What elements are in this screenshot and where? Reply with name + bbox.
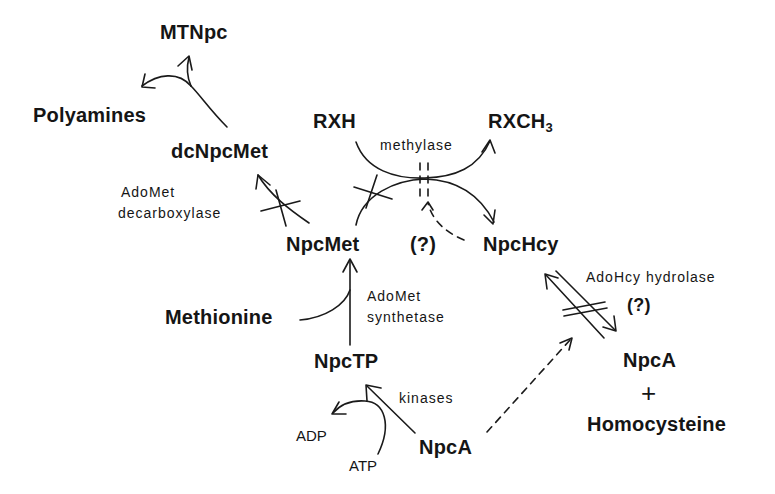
enzyme-adomet-synthetase-line2: synthetase [367,309,445,327]
arrow-dcnpcmet-branch [191,86,227,127]
node-rxch3-main: RXCH [488,110,545,132]
node-npca-right: NpcA [623,350,676,370]
pathway-diagram: MTNpc Polyamines dcNpcMet RXH RXCH3 NpcM… [0,0,775,494]
arrowhead-mtnpc [178,56,192,70]
node-homocysteine: Homocysteine [587,414,726,434]
enzyme-methylase: methylase [380,137,453,155]
node-npcmet: NpcMet [286,234,359,254]
node-methionine: Methionine [165,307,273,327]
arrow-atp-to-adp [333,401,385,454]
node-mtnpc: MTNpc [160,22,228,42]
arrowhead-feedback [422,202,433,210]
node-atp: ATP [349,458,377,473]
enzyme-kinases: kinases [399,390,453,408]
arrow-npcmet-to-npchcy [356,179,494,225]
enzyme-adomet-synthetase-line1: AdoMet [367,288,421,306]
node-adp: ADP [296,428,327,443]
node-rxch3: RXCH3 [488,111,553,134]
inhibition-cross-decarboxylase-2 [276,190,286,226]
arrow-to-polyamines [142,76,191,86]
enzyme-adomet-decarboxylase-line2: decarboxylase [118,205,221,223]
arrow-methionine-merge [300,290,350,320]
node-npctp: NpcTP [314,351,378,371]
node-plus: + [641,380,656,406]
dashed-arrow-npca-to-hydrolase [487,340,570,432]
arrowhead-npchcy [484,210,495,224]
node-question-methylase: (?) [410,234,436,254]
enzyme-adomet-decarboxylase-line1: AdoMet [121,184,175,202]
node-rxch3-subscript: 3 [545,120,552,135]
node-dcnpcmet: dcNpcMet [171,141,268,161]
node-polyamines: Polyamines [33,105,146,125]
node-npca-bottom: NpcA [419,437,472,457]
node-rxh: RXH [313,111,356,131]
node-npchcy: NpcHcy [483,234,559,254]
enzyme-adohcy-hydrolase: AdoHcy hydrolase [586,269,716,287]
enzyme-question-hydrolase: (?) [627,296,651,314]
